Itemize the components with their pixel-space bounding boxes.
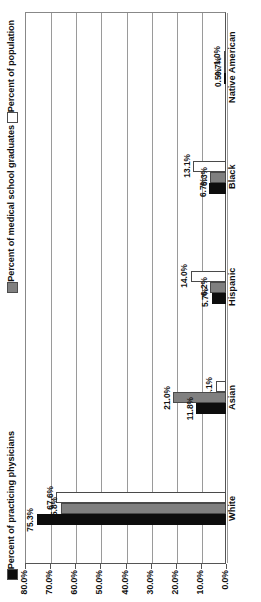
bar-value-label: 0.5% [214,68,222,87]
bar-row: 65.8% [25,503,226,514]
legend-label-medical-school-graduates: Percent of medical school graduates [7,125,16,282]
bar-percent-of-practicing-physicians [37,514,226,525]
axis-tick-label: 0.0% [221,570,230,590]
bar-group: 4.1%21.0%11.8% [25,342,226,453]
bar-percent-of-population [193,161,226,172]
bar-row: 75.3% [25,514,226,525]
category-label-native-american: Native American [228,12,237,122]
bar-group: 13.1%6.3%6.7% [25,122,226,232]
legend-swatch-population [7,112,18,123]
axis-tick-label: 40.0% [121,570,130,594]
bar-row: 6.3% [25,172,226,183]
bar-percent-of-practicing-physicians [212,293,226,304]
bar-row: 5.7% [25,293,226,304]
bar-row: 13.1% [25,161,226,172]
axis-tick-label: 80.0% [20,570,29,594]
bar-percent-of-medical-school-graduates [210,172,226,183]
category-label-hispanic: Hispanic [228,232,237,342]
axis-tick-label: 60.0% [70,570,79,594]
bar-row: 0.5% [25,73,226,84]
bar-percent-of-medical-school-graduates [224,62,226,73]
bar-percent-of-practicing-physicians [209,183,226,194]
legend-entry: Percent of medical school graduates [0,130,24,298]
bar-value-label: 75.3% [26,508,34,532]
axis-tick [126,564,127,569]
axis-tick-label: 50.0% [95,570,104,594]
bar-group: 67.6%65.8%75.3% [25,453,226,564]
legend-entry: Percent of practicing physicians [0,300,24,585]
axis-tick [100,564,101,569]
axis-tick-label: 20.0% [171,570,180,594]
axis-tick-label: 30.0% [146,570,155,594]
bar-group: 14.0%6.2%5.7% [25,232,226,342]
axis-tick [201,564,202,569]
bar-row: 0.7% [25,62,226,73]
bar-row: 11.8% [25,403,226,414]
bar-row: 21.0% [25,392,226,403]
axis-tick [75,564,76,569]
bar-row: 1.0% [25,51,226,62]
category-label-asian: Asian [228,342,237,453]
bar-percent-of-population [224,51,227,62]
legend-label-population: Percent of population [7,20,16,112]
axis-tick [25,564,26,569]
legend-label-practicing-physicians: Percent of practicing physicians [7,431,16,569]
legend-swatch-medical-school-graduates [7,282,18,293]
bar-percent-of-medical-school-graduates [61,503,226,514]
bar-percent-of-population [216,381,226,392]
category-label-white: White [228,453,237,564]
category-label-black: Black [228,122,237,232]
chart-legend: Percent of practicing physicians Percent… [0,0,24,602]
bar-percent-of-medical-school-graduates [173,392,226,403]
legend-swatch-practicing-physicians [7,569,18,580]
axis-tick [176,564,177,569]
bar-group: 1.0%0.7%0.5% [25,12,226,122]
bar-value-label: 6.7% [199,178,207,197]
axis-tick [50,564,51,569]
legend-entry: Percent of population [0,14,24,128]
bar-percent-of-practicing-physicians [196,403,226,414]
bar-row: 6.7% [25,183,226,194]
bar-value-label: 11.8% [186,397,194,420]
axis-tick-label: 10.0% [196,570,205,594]
bar-percent-of-medical-school-graduates [210,282,226,293]
bar-value-label: 5.7% [201,288,209,307]
axis-tick-label: 70.0% [45,570,54,594]
bar-row: 6.2% [25,282,226,293]
bar-row: 14.0% [25,271,226,282]
axis-tick [151,564,152,569]
axis-tick [226,564,227,569]
bar-percent-of-practicing-physicians [224,73,226,84]
bar-percent-of-population [56,492,226,503]
bar-row: 4.1% [25,381,226,392]
